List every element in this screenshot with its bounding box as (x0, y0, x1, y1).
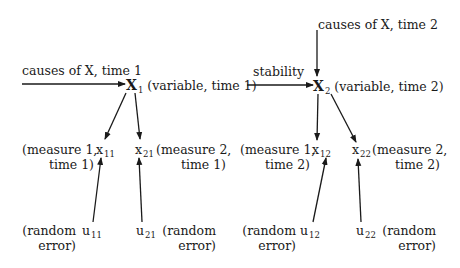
error-u21: u21 (136, 223, 156, 240)
X2-subscript: 2 (325, 86, 330, 96)
u12-label: (random error) (240, 223, 296, 253)
edge-X1-x11 (105, 93, 126, 139)
edge-u11-x11 (93, 158, 101, 222)
measure-x21: x21 (135, 142, 154, 159)
u11-subscript: 11 (91, 230, 102, 240)
u21-subscript: 21 (145, 230, 156, 240)
x21-symbol: x (135, 142, 142, 157)
u21-label-line1: (random (156, 223, 216, 238)
x12-subscript: 12 (320, 149, 331, 159)
causes-time2-label: causes of X, time 2 (318, 17, 438, 32)
x22-label-line1: (measure 2, (372, 142, 440, 157)
x22-subscript: 22 (360, 149, 371, 159)
u22-symbol: u (356, 223, 364, 238)
x21-label: (measure 2, time 1) (156, 142, 226, 172)
edge-u21-x21 (139, 158, 142, 222)
variable-X1: X1 (variable, time 1) (126, 78, 257, 95)
x11-subscript: 11 (104, 149, 115, 159)
error-u12: u12 (300, 223, 320, 240)
x11-label: (measure 1, time 1) (22, 142, 94, 172)
edge-X2-x12 (317, 94, 318, 140)
u12-subscript: 12 (309, 230, 320, 240)
u12-symbol: u (300, 223, 308, 238)
measure-x22: x22 (352, 142, 371, 159)
x12-label-line1: (measure 1, (240, 142, 310, 157)
X1-label: (variable, time 1) (147, 78, 256, 93)
u22-label: (random error) (374, 223, 436, 253)
u21-label: (random error) (156, 223, 216, 253)
u11-symbol: u (82, 223, 90, 238)
X1-symbol: X (126, 77, 137, 93)
edge-u22-x22 (358, 159, 361, 222)
edge-u12-x12 (313, 158, 326, 222)
variable-X2: X2 (variable, time 2) (313, 79, 444, 96)
error-u11: u11 (82, 223, 102, 240)
u12-label-line1: (random (240, 223, 296, 238)
x12-label-line2: time 2) (240, 157, 310, 172)
x22-label-line2: time 2) (372, 157, 440, 172)
x22-symbol: x (352, 142, 359, 157)
u21-label-line2: error) (156, 238, 216, 253)
x11-symbol: x (96, 142, 103, 157)
x22-label: (measure 2, time 2) (372, 142, 440, 172)
x21-label-line2: time 1) (156, 157, 226, 172)
u21-symbol: u (136, 223, 144, 238)
u11-label: (random error) (20, 223, 76, 253)
u22-label-line1: (random (374, 223, 436, 238)
measure-x12: x12 (312, 142, 331, 159)
X2-symbol: X (313, 78, 324, 94)
edge-X1-x21 (135, 93, 140, 139)
x21-label-line1: (measure 2, (156, 142, 226, 157)
X1-subscript: 1 (138, 85, 143, 95)
edge-X2-x22 (331, 94, 356, 142)
x12-label: (measure 1, time 2) (240, 142, 310, 172)
u11-label-line2: error) (20, 238, 76, 253)
u22-label-line2: error) (374, 238, 436, 253)
u11-label-line1: (random (20, 223, 76, 238)
stability-label: stability (253, 64, 304, 79)
x12-symbol: x (312, 142, 319, 157)
u12-label-line2: error) (240, 238, 296, 253)
x11-label-line1: (measure 1, (22, 142, 94, 157)
x11-label-line2: time 1) (22, 157, 94, 172)
measure-x11: x11 (96, 142, 115, 159)
X2-label: (variable, time 2) (334, 79, 443, 94)
error-u22: u22 (356, 223, 376, 240)
x21-subscript: 21 (143, 149, 154, 159)
causes-time1-label: causes of X, time 1 (22, 63, 142, 78)
